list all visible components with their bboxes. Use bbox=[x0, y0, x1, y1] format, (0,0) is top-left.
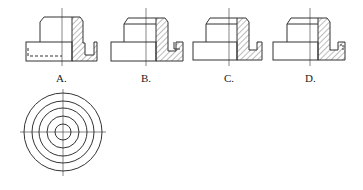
option-a-label: A. bbox=[56, 72, 67, 84]
option-c-drawing bbox=[193, 8, 262, 66]
option-d-label: D. bbox=[305, 72, 316, 84]
option-c-label: C. bbox=[224, 72, 234, 84]
top-view-circles bbox=[20, 89, 106, 176]
option-a-drawing bbox=[26, 8, 97, 66]
engineering-drawing bbox=[0, 0, 363, 190]
option-b-drawing bbox=[111, 8, 183, 66]
option-b-label: B. bbox=[141, 72, 151, 84]
option-d-drawing bbox=[273, 8, 345, 66]
